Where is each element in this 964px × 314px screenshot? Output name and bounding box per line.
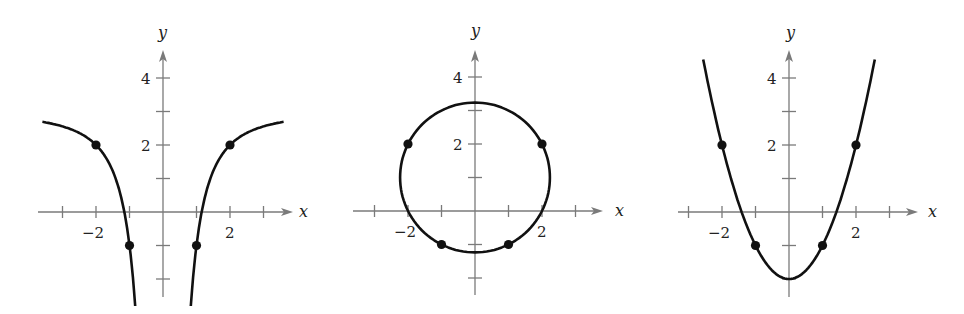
data-point xyxy=(225,140,234,149)
data-point xyxy=(403,139,412,148)
axes xyxy=(353,50,603,295)
data-point xyxy=(504,240,513,249)
y-tick-label-2: 2 xyxy=(767,137,777,155)
figure: −2 2 4 2 x y −2 2 4 2 x y −2 2 4 2 x y xyxy=(0,0,964,314)
data-point xyxy=(818,241,827,250)
y-tick-label-4: 4 xyxy=(767,70,777,88)
data-point xyxy=(537,139,546,148)
x-tick-label-neg2: −2 xyxy=(82,224,104,242)
curve-left-branch xyxy=(42,122,135,306)
graph-circle: −2 2 4 2 x y xyxy=(353,21,624,295)
y-tick-label-2: 2 xyxy=(141,137,151,155)
y-tick-label-2: 2 xyxy=(453,136,463,154)
y-axis-label: y xyxy=(157,23,168,42)
axes xyxy=(678,50,918,297)
graph-parabola: −2 2 4 2 x y xyxy=(678,23,937,297)
y-tick-label-4: 4 xyxy=(141,70,151,88)
y-axis-label: y xyxy=(470,21,481,40)
x-axis-label: x xyxy=(615,201,624,220)
x-tick-label-neg2: −2 xyxy=(708,224,730,242)
x-tick-label-neg2: −2 xyxy=(394,223,416,241)
x-axis-label: x xyxy=(299,202,308,221)
x-tick-label-2: 2 xyxy=(851,224,861,242)
x-axis-label: x xyxy=(928,202,937,221)
x-tick-label-2: 2 xyxy=(537,223,547,241)
data-point xyxy=(125,241,134,250)
data-point xyxy=(192,241,201,250)
graph-reciprocal-square: −2 2 4 2 x y xyxy=(38,23,308,306)
axes xyxy=(38,50,293,297)
x-tick-label-2: 2 xyxy=(225,224,235,242)
data-point xyxy=(851,140,860,149)
y-tick-label-4: 4 xyxy=(453,69,463,87)
data-point xyxy=(437,240,446,249)
curve-right-branch xyxy=(191,122,284,306)
data-point xyxy=(91,140,100,149)
y-axis-label: y xyxy=(785,23,796,42)
data-point xyxy=(751,241,760,250)
data-point xyxy=(717,140,726,149)
